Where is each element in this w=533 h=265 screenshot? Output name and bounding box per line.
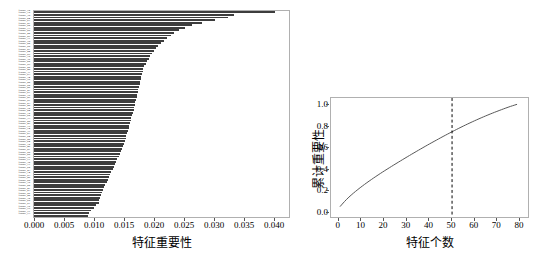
bar-row: [34, 120, 131, 122]
bar-row: [34, 68, 143, 70]
bar-row: [34, 145, 123, 147]
line-x-tick-label: 50: [447, 220, 456, 230]
bar-row: [34, 91, 138, 93]
bar-row: [34, 19, 215, 21]
bar-row: [34, 29, 179, 31]
feature-importance-bar-panel: feature_72feature_15feature_38feature_04…: [0, 0, 305, 265]
bar-row: [34, 189, 103, 191]
bar-x-tick-label: 0.020: [144, 220, 164, 230]
bar-x-tick-label: 0.025: [174, 220, 194, 230]
line-chart-plot-area: [330, 97, 529, 218]
bar-x-tick-label: 0.010: [84, 220, 104, 230]
bar-row: [34, 176, 109, 178]
bar-row: [34, 73, 142, 75]
bar-row: [34, 50, 154, 52]
bar-row: [34, 24, 192, 26]
bar-row: [34, 47, 156, 49]
line-x-tick-label: 0: [336, 220, 341, 230]
bar-y-tick-label: feature_73: [19, 213, 31, 216]
bar-row: [34, 109, 134, 111]
bar-row: [34, 101, 135, 103]
bar-row: [34, 35, 171, 37]
bar-row: [34, 81, 140, 83]
line-x-tick-mark: [428, 218, 429, 221]
line-x-tick-mark: [338, 218, 339, 221]
bar-row: [34, 179, 108, 181]
bar-row: [34, 138, 126, 140]
bar-row: [34, 130, 128, 132]
bar-row: [34, 63, 146, 65]
bar-row: [34, 104, 135, 106]
bar-row: [34, 45, 158, 47]
bar-row: [34, 166, 114, 168]
bar-row: [34, 94, 137, 96]
cumulative-curve-svg: [331, 98, 528, 217]
bar-row: [34, 122, 130, 124]
bar-row: [34, 37, 167, 39]
line-y-tick-label: 0.0: [306, 207, 328, 217]
cumulative-importance-line-panel: 0.00.20.40.60.81.0 01020304050607080 特征个…: [305, 0, 533, 265]
bar-x-tick-label: 0.000: [24, 220, 44, 230]
bar-row: [34, 199, 99, 201]
line-y-tick-mark: [326, 126, 329, 127]
bar-row: [34, 204, 96, 206]
bar-chart-x-axis-title: 特征重要性: [33, 233, 290, 250]
bar-row: [34, 83, 140, 85]
line-y-tick-mark: [326, 212, 329, 213]
line-x-tick-label: 40: [424, 220, 433, 230]
line-y-tick-mark: [326, 169, 329, 170]
bar-row: [34, 174, 110, 176]
bar-x-tick-mark: [154, 218, 155, 221]
bar-row: [34, 71, 143, 73]
bar-row: [34, 114, 132, 116]
line-x-tick-label: 10: [356, 220, 365, 230]
bar-row: [34, 202, 99, 204]
figure-canvas: feature_72feature_15feature_38feature_04…: [0, 0, 533, 265]
line-x-tick-label: 80: [514, 220, 523, 230]
line-y-tick-mark: [326, 147, 329, 148]
line-x-tick-mark: [451, 218, 452, 221]
bar-row: [34, 60, 147, 62]
bar-row: [34, 78, 141, 80]
bar-row: [34, 96, 137, 98]
bar-row: [34, 148, 122, 150]
bar-row: [34, 135, 126, 137]
bar-row: [34, 207, 94, 209]
bar-row: [34, 197, 100, 199]
bar-row: [34, 171, 111, 173]
line-x-tick-mark: [519, 218, 520, 221]
bar-row: [34, 210, 91, 212]
bar-row: [34, 184, 105, 186]
line-x-tick-label: 70: [492, 220, 501, 230]
bar-row: [34, 42, 161, 44]
bar-x-tick-mark: [64, 218, 65, 221]
bar-row: [34, 11, 275, 13]
bar-row: [34, 76, 141, 78]
line-x-tick-label: 60: [469, 220, 478, 230]
bar-row: [34, 168, 113, 170]
bar-row: [34, 150, 121, 152]
bar-row: [34, 156, 119, 158]
bar-row: [34, 14, 234, 16]
bar-row: [34, 99, 136, 101]
bar-row: [34, 158, 117, 160]
bar-x-tick-mark: [274, 218, 275, 221]
bar-row: [34, 32, 174, 34]
bar-row: [34, 40, 164, 42]
bar-row: [34, 89, 138, 91]
line-x-tick-mark: [360, 218, 361, 221]
bar-x-tick-mark: [124, 218, 125, 221]
bar-x-tick-mark: [184, 218, 185, 221]
line-x-tick-mark: [406, 218, 407, 221]
line-x-tick-mark: [496, 218, 497, 221]
bar-row: [34, 215, 88, 217]
bar-row: [34, 112, 133, 114]
bar-row: [34, 163, 115, 165]
bar-row: [34, 132, 127, 134]
bar-row: [34, 212, 89, 214]
bar-row: [34, 86, 139, 88]
bar-row: [34, 127, 129, 129]
bar-row: [34, 194, 101, 196]
bar-x-tick-mark: [34, 218, 35, 221]
bar-row: [34, 192, 102, 194]
